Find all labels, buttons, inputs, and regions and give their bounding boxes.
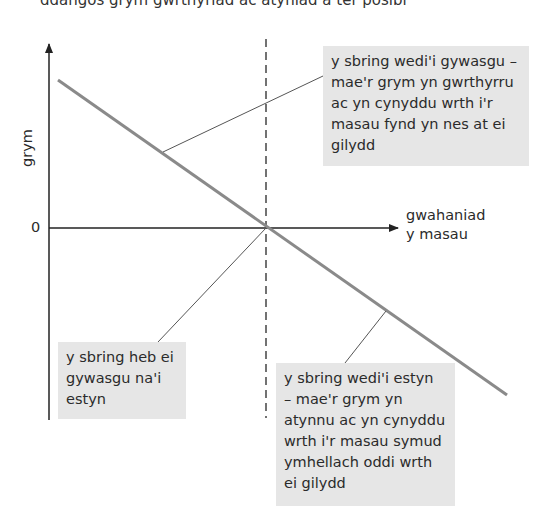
x-axis-label: gwahaniad y masau	[406, 206, 485, 244]
annotation-line: – mae'r grym yn	[284, 389, 447, 410]
annotation-line: ymhellach oddi wrth	[284, 452, 447, 473]
annotation-natural: y sbring heb ei gywasgu na'i estyn	[58, 342, 186, 419]
annotation-line: wrth i'r masau symud	[284, 431, 447, 452]
origin-label: 0	[31, 218, 40, 237]
x-axis-label-line1: gwahaniad	[406, 206, 485, 225]
x-axis-label-line2: y masau	[406, 225, 485, 244]
annotation-line: atynnu ac yn cynyddu	[284, 410, 447, 431]
annotation-line: gilydd	[331, 135, 521, 156]
annotation-line: y sbring heb ei	[66, 347, 178, 368]
annotation-line: masau fynd yn nes at ei	[331, 114, 521, 135]
leader-natural	[158, 228, 266, 342]
annotation-line: ei gilydd	[284, 473, 447, 494]
annotation-line: y sbring wedi'i estyn	[284, 368, 447, 389]
leader-stretched	[345, 311, 386, 363]
y-axis-label: grym	[19, 123, 35, 173]
annotation-stretched: y sbring wedi'i estyn – mae'r grym yn at…	[276, 363, 455, 506]
annotation-line: gywasgu na'i	[66, 368, 178, 389]
annotation-line: estyn	[66, 389, 178, 410]
annotation-line: y sbring wedi'i gywasgu –	[331, 51, 521, 72]
annotation-compressed: y sbring wedi'i gywasgu – mae'r grym yn …	[323, 46, 529, 166]
annotation-line: ac yn cynyddu wrth i'r	[331, 93, 521, 114]
annotation-line: mae'r grym yn gwrthyrru	[331, 72, 521, 93]
leader-compressed	[163, 76, 323, 152]
